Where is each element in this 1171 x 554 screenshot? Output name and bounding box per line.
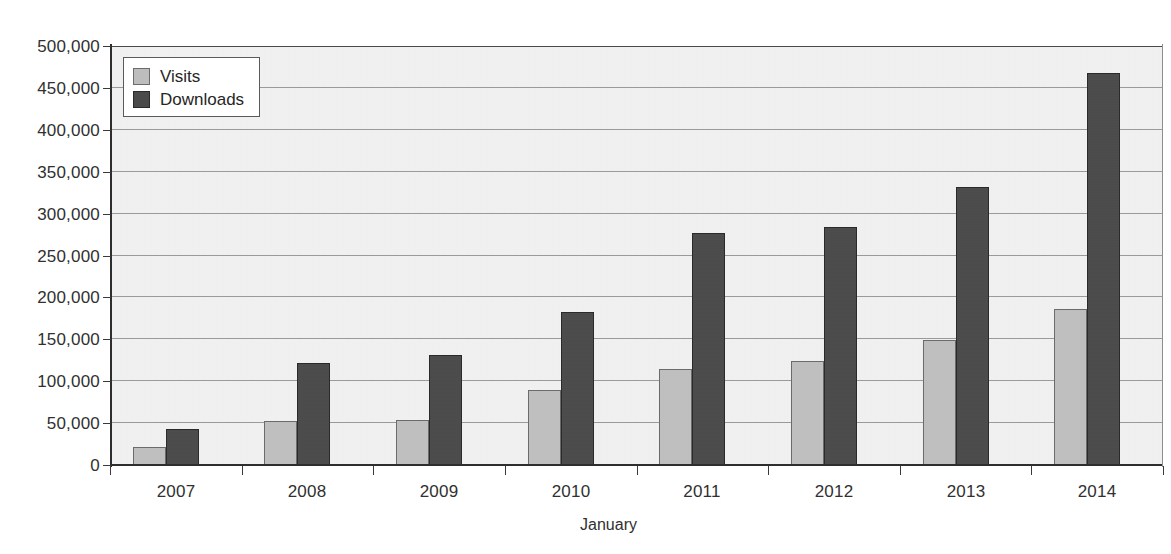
gridline	[110, 338, 1163, 339]
x-axis-tick-label: 2007	[116, 482, 236, 502]
x-axis-tick	[1163, 466, 1164, 475]
gridline	[110, 46, 1163, 47]
bar-downloads-2008	[297, 363, 330, 465]
y-axis-tick-label: 350,000	[4, 164, 100, 181]
y-axis-tick-label: 0	[4, 457, 100, 474]
chart-legend: Visits Downloads	[123, 57, 260, 117]
y-axis-tick	[103, 423, 111, 424]
x-axis-tick	[242, 466, 243, 475]
y-axis-tick-label: 300,000	[4, 206, 100, 223]
y-axis-tick-label: 400,000	[4, 122, 100, 139]
x-axis-tick-label: 2009	[379, 482, 499, 502]
gridline	[110, 296, 1163, 297]
legend-swatch-downloads-icon	[133, 91, 150, 108]
bar-downloads-2012	[824, 227, 857, 465]
x-axis-tick	[505, 466, 506, 475]
bar-visits-2012	[791, 361, 824, 465]
plot-right-border	[1162, 44, 1163, 467]
plot-area	[110, 46, 1163, 465]
bar-visits-2009	[396, 420, 429, 465]
x-axis-title-text: January	[580, 516, 637, 533]
y-axis-tick-label: 450,000	[4, 80, 100, 97]
bar-chart: 050,000100,000150,000200,000250,000300,0…	[0, 0, 1171, 554]
gridline	[110, 87, 1163, 88]
y-axis-tick	[103, 172, 111, 173]
bar-downloads-2007	[166, 429, 199, 465]
y-axis-tick-label: 500,000	[4, 38, 100, 55]
x-axis-tick	[373, 466, 374, 475]
bar-visits-2007	[133, 447, 166, 465]
legend-label-visits: Visits	[160, 67, 200, 87]
x-axis-title: January	[0, 516, 1171, 534]
x-axis-tick-label: 2014	[1037, 482, 1157, 502]
y-axis-tick	[103, 256, 111, 257]
y-axis-tick-label: 100,000	[4, 373, 100, 390]
gridline	[110, 213, 1163, 214]
y-axis-tick	[103, 46, 111, 47]
x-axis-tick-label: 2008	[247, 482, 367, 502]
x-axis-tick-label: 2011	[642, 482, 762, 502]
bar-downloads-2009	[429, 355, 462, 465]
legend-item-visits: Visits	[133, 65, 259, 88]
x-axis-tick	[768, 466, 769, 475]
y-axis-tick	[103, 130, 111, 131]
y-axis-tick-label: 50,000	[4, 415, 100, 432]
gridline	[110, 129, 1163, 130]
bar-visits-2014	[1054, 309, 1087, 465]
y-axis-tick	[103, 214, 111, 215]
y-axis-tick-label: 250,000	[4, 248, 100, 265]
y-axis-tick	[103, 381, 111, 382]
y-axis-tick	[103, 88, 111, 89]
bar-downloads-2013	[956, 187, 989, 465]
x-axis-tick	[1031, 466, 1032, 475]
legend-item-downloads: Downloads	[133, 88, 259, 111]
legend-swatch-visits-icon	[133, 68, 150, 85]
gridline	[110, 255, 1163, 256]
gridline	[110, 380, 1163, 381]
gridline	[110, 171, 1163, 172]
y-axis-tick	[103, 339, 111, 340]
x-axis-tick	[110, 466, 111, 475]
y-axis-tick-label: 150,000	[4, 331, 100, 348]
y-axis-tick-label: 200,000	[4, 289, 100, 306]
y-axis-tick	[103, 297, 111, 298]
legend-label-downloads: Downloads	[160, 90, 244, 110]
bar-visits-2011	[659, 369, 692, 465]
bar-downloads-2014	[1087, 73, 1120, 465]
bar-visits-2013	[923, 340, 956, 465]
x-axis-tick-label: 2012	[774, 482, 894, 502]
bar-visits-2008	[264, 421, 297, 465]
x-axis-tick-label: 2010	[511, 482, 631, 502]
bar-downloads-2011	[692, 233, 725, 465]
x-axis-tick-label: 2013	[906, 482, 1026, 502]
x-axis-tick	[637, 466, 638, 475]
bar-visits-2010	[528, 390, 561, 465]
bar-downloads-2010	[561, 312, 594, 465]
x-axis-tick	[900, 466, 901, 475]
